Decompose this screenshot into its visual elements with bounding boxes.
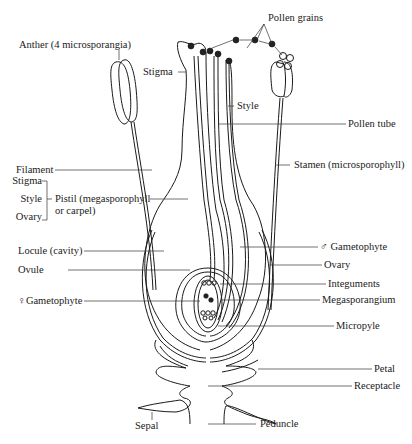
label-pistil-stigma: Stigma (0, 175, 42, 187)
left-filament (131, 122, 156, 290)
label-petal: Petal (374, 363, 395, 375)
label-pistil-ovary: Ovary (0, 211, 42, 223)
label-ovule: Ovule (18, 264, 44, 276)
pollen-grains (188, 37, 282, 64)
label-receptacle: Receptacle (354, 380, 400, 392)
label-ovary: Ovary (324, 259, 350, 271)
label-stamen: Stamen (microsporophyll) (294, 159, 405, 171)
ovule (176, 268, 240, 342)
label-stigma: Stigma (143, 66, 173, 78)
label-megasporangium: Megasporangium (322, 294, 396, 306)
label-locule: Locule (cavity) (18, 245, 82, 257)
right-anther (271, 53, 294, 98)
label-micropyle: Micropyle (336, 320, 380, 332)
petals-sepals (138, 340, 276, 424)
label-integuments: Integuments (328, 278, 380, 290)
label-sepal: Sepal (135, 420, 158, 432)
label-pistil-continued: or carpel) (55, 205, 96, 217)
label-peduncle: Peduncle (260, 418, 299, 430)
label-pollen-tube: Pollen tube (348, 118, 396, 130)
left-anther (111, 60, 137, 124)
right-filament (268, 98, 283, 310)
label-style: Style (237, 100, 259, 112)
label-anther: Anther (4 microsporangia) (19, 39, 131, 51)
label-female-gametophyte: ♀Gametophyte (18, 295, 82, 307)
label-pistil: Pistil (megasporophyll (55, 193, 150, 205)
label-male-gametophyte: ♂ Gametophyte (320, 241, 387, 253)
label-pistil-style: Style (0, 193, 42, 205)
pollen-tubes (194, 52, 248, 328)
flower-diagram (0, 0, 412, 444)
pistil-outline (145, 42, 266, 350)
label-pollen-grains: Pollen grains (268, 12, 323, 24)
